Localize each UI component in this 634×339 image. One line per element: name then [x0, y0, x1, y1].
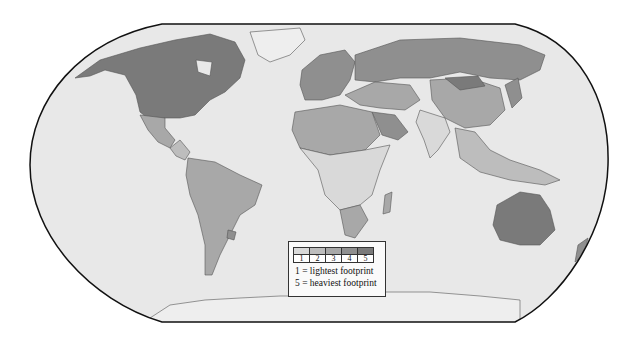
swatch-label: 2 — [310, 255, 325, 262]
swatch-label: 1 — [294, 255, 309, 262]
legend-heaviest-label: 5 = heaviest footprint — [295, 278, 377, 288]
region-north-africa — [292, 105, 380, 155]
swatch-label: 5 — [358, 255, 373, 262]
legend-swatch-3: 3 — [325, 247, 342, 263]
legend-swatch-2: 2 — [309, 247, 326, 263]
swatch-label: 4 — [342, 255, 357, 262]
legend-lightest-label: 1 = lightest footprint — [295, 266, 373, 276]
legend-swatch-5: 5 — [357, 247, 374, 263]
swatch-label: 3 — [326, 255, 341, 262]
map-legend: 1 2 3 4 5 1 = lightest footprint 5 = hea… — [288, 241, 386, 297]
legend-swatch-1: 1 — [293, 247, 310, 263]
legend-swatches: 1 2 3 4 5 — [293, 247, 373, 263]
legend-swatch-4: 4 — [341, 247, 358, 263]
region-uruguay — [227, 230, 236, 240]
